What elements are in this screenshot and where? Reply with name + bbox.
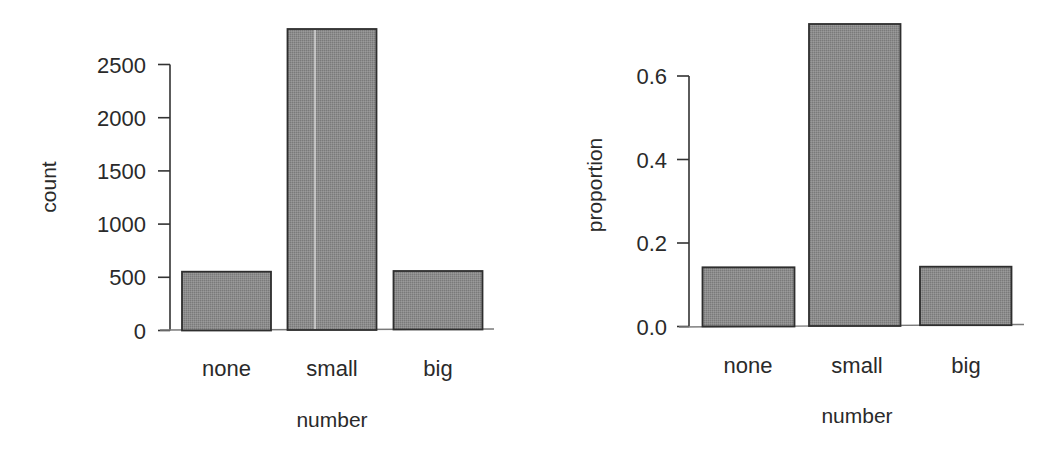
y-tick-label: 500 bbox=[109, 265, 146, 290]
y-tick-label: 0.0 bbox=[636, 315, 667, 340]
y-tick-label: 0 bbox=[134, 319, 146, 344]
y-tick-label: 0.4 bbox=[636, 148, 667, 173]
proportion-bar-chart: 0.0 0.2 0.4 0.6 proportion none small bi… bbox=[583, 24, 1024, 427]
count-bar-chart: 0 500 1000 1500 2000 2500 count none sma… bbox=[37, 29, 494, 431]
x-category-label: big bbox=[951, 353, 980, 378]
y-axis: 0.0 0.2 0.4 0.6 bbox=[636, 64, 689, 340]
x-category-label: none bbox=[202, 356, 251, 381]
x-axis-title: number bbox=[296, 408, 367, 431]
y-tick-label: 1000 bbox=[97, 212, 146, 237]
bar-small bbox=[809, 24, 901, 326]
y-axis: 0 500 1000 1500 2000 2500 bbox=[97, 53, 170, 344]
x-category-label: small bbox=[306, 356, 357, 381]
figure: 0 500 1000 1500 2000 2500 count none sma… bbox=[0, 0, 1049, 453]
y-axis-title: count bbox=[37, 161, 60, 213]
bar-none bbox=[703, 267, 795, 326]
bar-small bbox=[288, 29, 377, 330]
y-tick-label: 2000 bbox=[97, 106, 146, 131]
x-axis-title: number bbox=[821, 404, 892, 427]
y-axis-title: proportion bbox=[583, 138, 606, 233]
x-category-label: big bbox=[423, 356, 452, 381]
y-tick-label: 0.6 bbox=[636, 64, 667, 89]
bar-none bbox=[182, 272, 271, 331]
bar-big bbox=[394, 271, 483, 330]
x-category-label: none bbox=[724, 353, 773, 378]
y-tick-label: 1500 bbox=[97, 159, 146, 184]
y-tick-label: 2500 bbox=[97, 53, 146, 78]
y-tick-label: 0.2 bbox=[636, 231, 667, 256]
bar-big bbox=[920, 267, 1012, 326]
x-category-label: small bbox=[831, 353, 882, 378]
